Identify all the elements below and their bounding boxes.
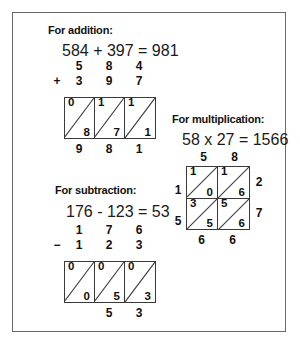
addition-lattice-cell-0-0: 0 8 (65, 98, 95, 138)
subtraction-minuend-digit-0: 1 (64, 224, 94, 237)
multiplication-top-label-row: 5 8 (188, 150, 250, 164)
subtraction-lattice-cell-0-2-lower: 3 (145, 291, 151, 303)
subtraction-subtrahend-digit-1: 2 (94, 239, 124, 252)
subtraction-lattice-cell-0-1-upper: 0 (98, 261, 104, 273)
subtraction-lattice-cell-0-1-lower: 5 (114, 291, 120, 303)
subtraction-section: For subtraction: (55, 184, 136, 196)
addition-result-row: 9 8 1 (64, 142, 156, 156)
addition-lattice-cell-0-2-lower: 1 (145, 127, 151, 139)
subtraction-subtrahend-row: − 1 2 3 (50, 239, 154, 252)
multiplication-left-label-1: 5 (170, 197, 186, 228)
addition-addend-bottom-digit-1: 9 (94, 75, 124, 88)
subtraction-lattice-cell-0-2-upper: 0 (128, 261, 134, 273)
addition-result-digit-2: 1 (124, 142, 154, 156)
multiplication-lattice-row-0: 1 0 1 6 (187, 167, 249, 198)
subtraction-top-operator-spacer (50, 224, 64, 237)
subtraction-equation: 176 - 123 = 53 (66, 203, 170, 221)
multiplication-equation: 58 x 27 = 1566 (182, 131, 288, 149)
multiplication-lattice-cell-0-1-lower: 6 (239, 187, 245, 199)
worksheet-page: For addition: 584 + 397 = 981 5 8 4 + 3 … (0, 0, 300, 350)
multiplication-right-label-0: 2 (250, 166, 268, 197)
addition-addend-bottom-digit-2: 7 (124, 75, 154, 88)
multiplication-lattice: 1 0 1 6 3 5 (186, 166, 250, 247)
multiplication-lattice-cell-1-1-upper: 5 (221, 198, 227, 210)
multiplication-lattice-cell-0-0: 1 0 (187, 167, 218, 198)
subtraction-lattice-cell-0-0-upper: 0 (68, 261, 74, 273)
multiplication-left-label-0: 1 (170, 166, 186, 197)
multiplication-lattice-cell-1-0-lower: 5 (207, 218, 213, 230)
multiplication-lattice-cell-0-1: 1 6 (218, 167, 249, 198)
addition-result-digit-0: 9 (64, 142, 94, 156)
addition-heading: For addition: (48, 24, 113, 36)
subtraction-lattice-row-0: 0 0 0 5 0 3 (65, 262, 155, 302)
addition-lattice-row-0: 0 8 1 7 1 1 (65, 98, 155, 138)
subtraction-result-digit-1: 5 (94, 306, 124, 320)
multiplication-right-label-1: 7 (250, 197, 268, 228)
multiplication-heading-text: For multiplication: (172, 113, 264, 125)
addition-lattice-cell-0-2-upper: 1 (128, 97, 134, 109)
addition-operands: 5 8 4 + 3 9 7 (50, 60, 154, 87)
addition-addend-top-digit-0: 5 (64, 60, 94, 73)
subtraction-operands: 1 7 6 − 1 2 3 (50, 224, 154, 251)
subtraction-minuend-digit-2: 6 (124, 224, 154, 237)
multiplication-bottom-label-1: 6 (217, 233, 248, 247)
addition-lattice: 0 8 1 7 1 1 9 8 1 (64, 97, 156, 156)
subtraction-result-row: 5 3 (64, 306, 156, 320)
subtraction-minuend-digit-1: 7 (94, 224, 124, 237)
subtraction-result-digit-2: 3 (124, 306, 154, 320)
subtraction-lattice-cell-0-0: 0 0 (65, 262, 95, 302)
addition-addend-bottom-digit-0: 3 (64, 75, 94, 88)
multiplication-left-labels: 1 5 (170, 166, 186, 228)
addition-lattice-cell-0-0-upper: 0 (68, 97, 74, 109)
subtraction-subtrahend-digit-2: 3 (124, 239, 154, 252)
addition-lattice-cell-0-0-lower: 8 (84, 127, 90, 139)
multiplication-bottom-labels: 6 6 (186, 233, 250, 247)
addition-addend-top-digit-2: 4 (124, 60, 154, 73)
multiplication-lattice-cell-1-0-upper: 3 (190, 198, 196, 210)
subtraction-lattice: 0 0 0 5 0 3 5 3 (64, 261, 156, 320)
subtraction-lattice-cell-0-1: 0 5 (95, 262, 125, 302)
multiplication-lattice-cell-0-0-upper: 1 (190, 166, 196, 178)
addition-lattice-cell-0-1: 1 7 (95, 98, 125, 138)
addition-addend-top-row: 5 8 4 (50, 60, 154, 73)
multiplication-lattice-row-1: 3 5 5 6 (187, 198, 249, 229)
multiplication-lattice-cell-0-0-lower: 0 (207, 187, 213, 199)
subtraction-result-digit-0 (64, 306, 94, 320)
addition-lattice-cell-0-1-lower: 7 (114, 127, 120, 139)
addition-addend-top-digit-1: 8 (94, 60, 124, 73)
multiplication-bottom-label-0: 6 (186, 233, 217, 247)
subtraction-lattice-grid: 0 0 0 5 0 3 (64, 261, 156, 303)
multiplication-lattice-cell-1-1-lower: 6 (239, 218, 245, 230)
addition-section: For addition: (48, 24, 113, 36)
multiplication-top-label-1: 8 (219, 150, 250, 164)
addition-lattice-cell-0-1-upper: 1 (98, 97, 104, 109)
multiplication-top-labels: 5 8 (188, 150, 250, 164)
multiplication-top-label-0: 5 (188, 150, 219, 164)
multiplication-lattice-grid: 1 0 1 6 3 5 (186, 166, 250, 230)
addition-equation: 584 + 397 = 981 (62, 42, 179, 60)
multiplication-right-labels: 2 7 (250, 166, 268, 228)
multiplication-heading: For multiplication: (172, 113, 264, 125)
addition-lattice-cell-0-2: 1 1 (125, 98, 155, 138)
addition-addend-bottom-row: + 3 9 7 (50, 75, 154, 88)
subtraction-heading: For subtraction: (55, 184, 136, 196)
multiplication-lattice-cell-1-1: 5 6 (218, 198, 249, 229)
addition-result-digit-1: 8 (94, 142, 124, 156)
subtraction-subtrahend-digit-0: 1 (64, 239, 94, 252)
multiplication-lattice-cell-1-0: 3 5 (187, 198, 218, 229)
multiplication-lattice-with-labels: 1 5 1 0 1 6 (170, 166, 268, 247)
subtraction-lattice-cell-0-2: 0 3 (125, 262, 155, 302)
subtraction-minuend-row: 1 7 6 (50, 224, 154, 237)
multiplication-lattice-cell-0-1-upper: 1 (221, 166, 227, 178)
multiplication-lattice-block: 1 5 1 0 1 6 (170, 166, 268, 247)
addition-lattice-grid: 0 8 1 7 1 1 (64, 97, 156, 139)
subtraction-operator: − (50, 239, 64, 252)
addition-top-operator-spacer (50, 60, 64, 73)
addition-operator: + (50, 75, 64, 88)
subtraction-lattice-cell-0-0-lower: 0 (84, 291, 90, 303)
